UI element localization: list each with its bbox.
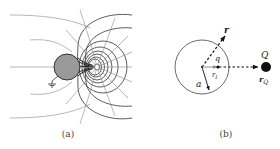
- label-Q: Q: [261, 50, 269, 60]
- label-q: q: [215, 54, 220, 63]
- panel-b: r q rI a Q rQ (b): [175, 25, 271, 139]
- label-a: a: [196, 79, 201, 89]
- label-r: r: [224, 25, 230, 35]
- vector-a: [202, 67, 209, 90]
- panel-a: (a): [10, 10, 132, 139]
- label-r-I: rI: [212, 71, 218, 80]
- caption-b: (b): [220, 129, 233, 139]
- vector-r: [202, 36, 225, 67]
- ground-icon: [48, 76, 58, 87]
- image-charge-q: [216, 65, 219, 68]
- caption-a: (a): [62, 129, 74, 139]
- charge-Q: [261, 62, 271, 72]
- point-charge-a: [95, 64, 100, 70]
- label-r-Q: rQ: [259, 74, 268, 85]
